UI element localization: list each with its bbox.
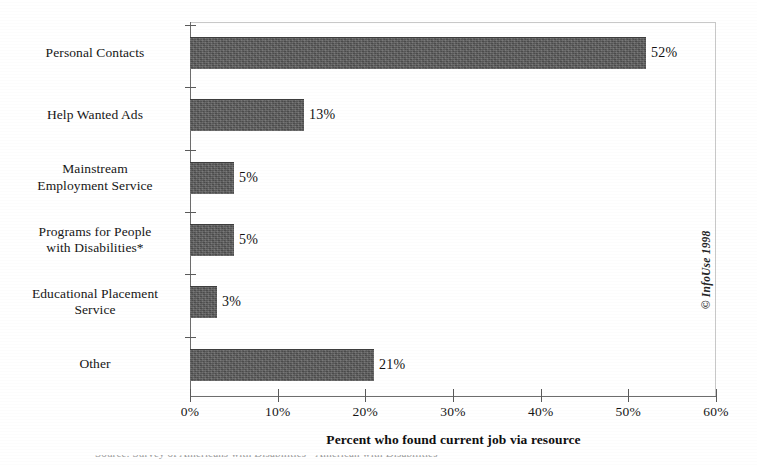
x-axis-tick bbox=[453, 389, 454, 402]
x-axis-tick-label: 10% bbox=[248, 404, 308, 420]
x-axis-ticks: 0% 10% 20% 30% 40% 50% 60% bbox=[0, 0, 757, 465]
footnote-text: Source: Survey of Americans with Disabil… bbox=[95, 455, 755, 459]
bar-chart-figure: Personal Contacts 52% Help Wanted Ads 13… bbox=[0, 0, 757, 465]
x-axis-tick bbox=[365, 389, 366, 402]
x-axis-tick bbox=[278, 389, 279, 402]
x-axis-tick bbox=[541, 389, 542, 402]
x-axis-tick-label: 60% bbox=[686, 404, 746, 420]
x-axis-tick-label: 50% bbox=[598, 404, 658, 420]
x-axis-tick-label: 20% bbox=[335, 404, 395, 420]
x-axis-tick-label: 30% bbox=[423, 404, 483, 420]
copyright-notice: © InfoUse 1998 bbox=[700, 231, 712, 309]
x-axis-tick bbox=[716, 389, 717, 402]
x-axis-title: Percent who found current job via resour… bbox=[190, 432, 717, 448]
x-axis-tick-label: 40% bbox=[511, 404, 571, 420]
footnote-cut-off: Source: Survey of Americans with Disabil… bbox=[95, 455, 755, 465]
x-axis-tick-label: 0% bbox=[160, 404, 220, 420]
x-axis-tick bbox=[628, 389, 629, 402]
x-axis-tick bbox=[190, 389, 191, 402]
